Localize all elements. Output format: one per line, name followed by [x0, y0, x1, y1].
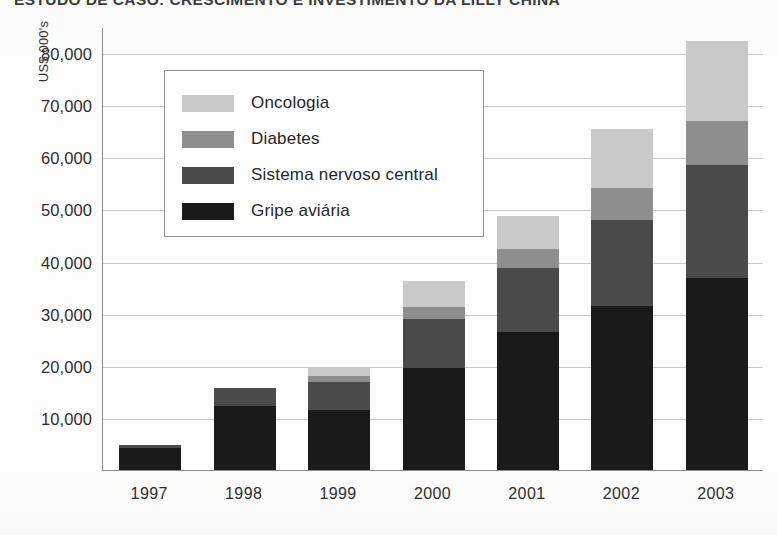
legend-swatch-icon: [182, 95, 234, 112]
bar-segment[interactable]: [591, 129, 653, 187]
bar-segment[interactable]: [403, 307, 465, 318]
bar-segment[interactable]: [119, 445, 181, 448]
legend-swatch-icon: [182, 203, 234, 220]
y-tick-label: 80,000: [8, 45, 92, 64]
bar-segment[interactable]: [686, 41, 748, 121]
x-tick-label: 2000: [393, 485, 473, 503]
chart-legend: OncologiaDiabetesSistema nervoso central…: [164, 70, 484, 237]
chart-title: ESTUDO DE CASO: CRESCIMENTO E INVESTIMEN…: [14, 0, 734, 7]
bar-segment[interactable]: [308, 376, 370, 383]
legend-item[interactable]: Oncologia: [182, 85, 483, 121]
legend-swatch-icon: [182, 131, 234, 148]
bar-segment[interactable]: [686, 121, 748, 164]
x-tick-label: 2003: [676, 485, 756, 503]
legend-swatch-icon: [182, 167, 234, 184]
bar-segment[interactable]: [214, 388, 276, 406]
x-tick-label: 2002: [581, 485, 661, 503]
x-tick-label: 1997: [109, 485, 189, 503]
bar-stack[interactable]: [686, 27, 748, 470]
bar-segment[interactable]: [403, 319, 465, 369]
bar-segment[interactable]: [591, 306, 653, 470]
bar-segment[interactable]: [308, 382, 370, 410]
bar-segment[interactable]: [214, 406, 276, 470]
y-tick-label: 30,000: [8, 305, 92, 324]
x-tick-label: 1999: [298, 485, 378, 503]
legend-item[interactable]: Diabetes: [182, 121, 483, 157]
bar-segment[interactable]: [591, 188, 653, 220]
x-tick-label: 2001: [487, 485, 567, 503]
bar-segment[interactable]: [686, 165, 748, 279]
bar-segment[interactable]: [308, 368, 370, 375]
bar-segment[interactable]: [403, 368, 465, 470]
x-tick-label: 1998: [204, 485, 284, 503]
y-tick-label: 40,000: [8, 253, 92, 272]
bar-segment[interactable]: [497, 216, 559, 249]
bar-segment[interactable]: [497, 268, 559, 332]
y-tick-label: 70,000: [8, 97, 92, 116]
bar-segment[interactable]: [497, 332, 559, 470]
chart-page: ESTUDO DE CASO: CRESCIMENTO E INVESTIMEN…: [0, 0, 777, 535]
y-tick-label: 60,000: [8, 149, 92, 168]
legend-label: Gripe aviária: [251, 201, 350, 221]
bar-segment[interactable]: [686, 278, 748, 470]
y-tick-label: 20,000: [8, 357, 92, 376]
legend-item[interactable]: Gripe aviária: [182, 193, 483, 229]
y-tick-label: 50,000: [8, 201, 92, 220]
bar-segment[interactable]: [308, 410, 370, 470]
legend-item[interactable]: Sistema nervoso central: [182, 157, 483, 193]
bar-stack[interactable]: [591, 27, 653, 470]
bar-segment[interactable]: [591, 220, 653, 306]
bar-segment[interactable]: [497, 249, 559, 268]
y-tick-label: 10,000: [8, 409, 92, 428]
bar-segment[interactable]: [403, 281, 465, 307]
bar-segment[interactable]: [119, 448, 181, 470]
legend-label: Sistema nervoso central: [251, 165, 438, 185]
bar-stack[interactable]: [497, 27, 559, 470]
legend-label: Diabetes: [251, 129, 320, 149]
legend-label: Oncologia: [251, 93, 329, 113]
